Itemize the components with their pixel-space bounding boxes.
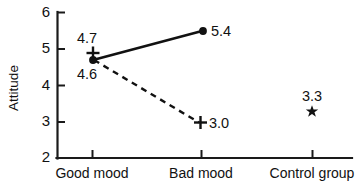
attitude-line-chart: 6 5 4 3 2 Attitude Good mood Bad mood Co…	[0, 0, 361, 191]
value-label-good-dot: 4.6	[77, 66, 97, 82]
y-tick-label-4: 4	[42, 76, 50, 93]
value-label-bad-plus: 3.0	[209, 115, 229, 131]
y-tick-label-2: 2	[42, 148, 50, 165]
chart-container: 6 5 4 3 2 Attitude Good mood Bad mood Co…	[0, 0, 361, 191]
x-label-control-group: Control group	[270, 165, 355, 181]
value-label-good-plus: 4.7	[77, 30, 97, 46]
value-label-control-star: 3.3	[302, 88, 322, 104]
x-label-good-mood: Good mood	[55, 165, 128, 181]
y-tick-label-6: 6	[42, 3, 50, 20]
y-tick-label-3: 3	[42, 112, 50, 129]
marker-dot-good-mood	[89, 56, 97, 64]
value-label-bad-dot: 5.4	[211, 23, 231, 39]
y-tick-label-5: 5	[42, 39, 50, 56]
marker-dot-bad-mood	[199, 27, 207, 35]
x-label-bad-mood: Bad mood	[169, 165, 233, 181]
y-axis-title: Attitude	[6, 65, 21, 111]
